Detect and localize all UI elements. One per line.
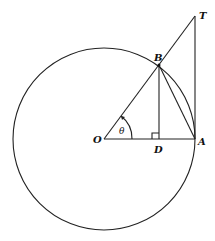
segment-OT: [104, 16, 195, 139]
label-A: A: [197, 136, 206, 147]
point-B: [158, 64, 161, 67]
chord-BA: [159, 65, 195, 139]
diagram: O A B D T θ: [0, 0, 215, 241]
label-O: O: [93, 134, 102, 145]
right-angle-mark: [152, 133, 159, 139]
label-theta: θ: [119, 126, 125, 136]
label-D: D: [153, 144, 163, 155]
label-T: T: [199, 10, 208, 21]
label-B: B: [153, 52, 162, 63]
